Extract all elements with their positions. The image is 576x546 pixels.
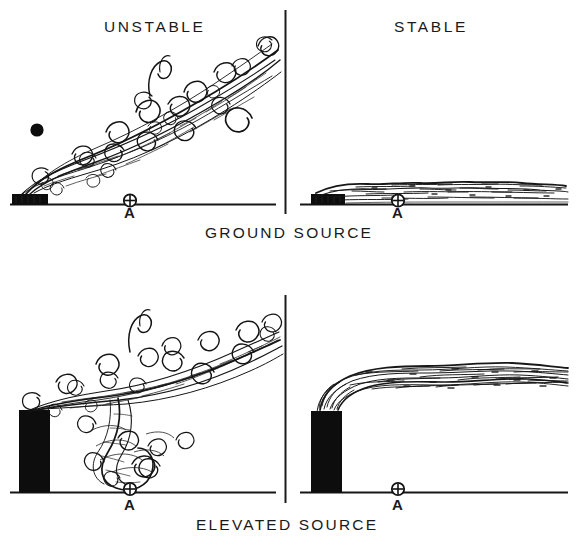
solid-dot-icon	[30, 123, 43, 136]
plume-ground-unstable	[20, 44, 281, 196]
elevated-stack-right	[311, 411, 342, 493]
receptor-marker-a-bottom-left	[124, 483, 136, 495]
column-title-unstable: UNSTABLE	[104, 18, 205, 36]
plume-ground-stable	[316, 182, 568, 203]
receptor-label-a-bottom-left: A	[124, 496, 135, 513]
panel-ground-stable	[300, 182, 568, 207]
ground-source-block-left	[12, 194, 48, 205]
receptor-marker-a-bottom-right	[392, 483, 404, 495]
plume-elevated-stable	[317, 363, 568, 412]
receptor-label-a-top-right: A	[392, 204, 403, 221]
panel-elevated-unstable	[10, 310, 284, 496]
column-title-stable: STABLE	[394, 18, 468, 36]
panel-elevated-stable	[300, 363, 568, 495]
row-caption-ground-source: GROUND SOURCE	[205, 224, 373, 242]
panel-ground-unstable	[10, 34, 281, 206]
elevated-stack-left	[19, 410, 50, 493]
plume-diagram-canvas	[0, 0, 576, 546]
ground-source-block-right	[311, 194, 345, 205]
row-caption-elevated-source: ELEVATED SOURCE	[196, 516, 378, 534]
receptor-label-a-bottom-right: A	[392, 496, 403, 513]
receptor-label-a-top-left: A	[124, 204, 135, 221]
